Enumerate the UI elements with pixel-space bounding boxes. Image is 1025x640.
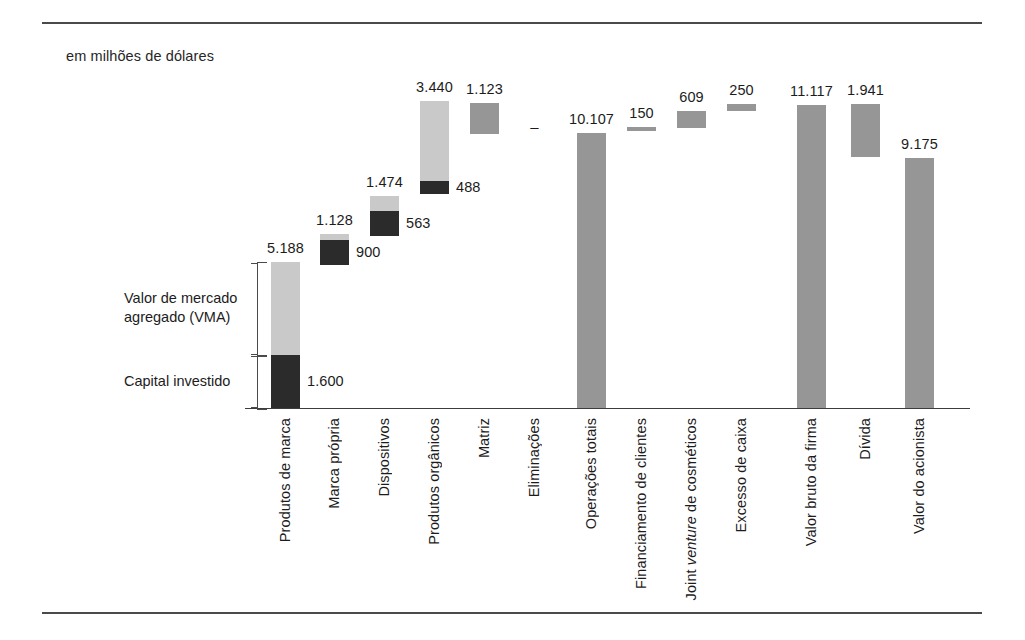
category-label-produtos-de-marca: Produtos de marca — [277, 418, 293, 542]
legend-brace-mva — [257, 262, 267, 357]
value-label-produtos-organicos: 3.440 — [416, 79, 453, 95]
category-label-valor-bruto-da-firma: Valor bruto da firma — [803, 418, 819, 546]
bar-produtos-de-marca[interactable] — [271, 0, 300, 408]
legend-brace-tick-top-cap — [251, 356, 258, 357]
category-label-eliminacoes: Eliminações — [526, 418, 542, 497]
value-label-excesso-de-caixa: 250 — [729, 82, 754, 98]
category-label-dispositivos: Dispositivos — [376, 418, 392, 497]
value-label-joint-venture-cosmeticos: 609 — [679, 89, 704, 105]
value-label-operacoes-totais: 10.107 — [569, 111, 614, 127]
segment-capital-produtos-organicos — [420, 181, 449, 194]
segment-capital-produtos-de-marca — [271, 355, 300, 408]
segment-value-divida — [851, 104, 880, 157]
category-label-valor-do-acionista: Valor do acionista — [911, 418, 927, 534]
waterfall-valuation-figure: em milhões de dólares 5.1881.600Produtos… — [0, 0, 1025, 640]
category-label-produtos-organicos: Produtos orgânicos — [426, 418, 442, 545]
legend-label-mva: Valor de mercado agregado (VMA) — [124, 289, 244, 327]
bar-valor-do-acionista[interactable] — [905, 0, 934, 408]
value-label-valor-do-acionista: 9.175 — [901, 136, 938, 152]
bar-financiamento-de-clientes[interactable] — [627, 0, 656, 408]
value-label-divida: 1.941 — [847, 82, 884, 98]
axis-baseline — [245, 408, 970, 409]
category-label-marca-propria: Marca própria — [326, 418, 342, 509]
segment-capital-dispositivos — [370, 211, 399, 236]
bar-joint-venture-cosmeticos[interactable] — [677, 0, 706, 408]
bar-valor-bruto-da-firma[interactable] — [797, 0, 826, 408]
bar-marca-propria[interactable] — [320, 0, 349, 408]
bar-produtos-organicos[interactable] — [420, 0, 449, 408]
bar-eliminacoes[interactable] — [520, 0, 549, 408]
value-label-marca-propria: 1.128 — [316, 212, 353, 228]
bar-operacoes-totais[interactable] — [577, 0, 606, 408]
value-label-produtos-de-marca: 5.188 — [267, 240, 304, 256]
category-label-divida: Dívida — [857, 418, 873, 460]
segment-mva-produtos-de-marca — [271, 262, 300, 355]
segment-value-matriz — [470, 103, 499, 134]
segment-value-excesso-de-caixa — [727, 104, 756, 111]
segment-value-financiamento-de-clientes — [627, 127, 656, 131]
category-label-operacoes-totais: Operações totais — [583, 418, 599, 529]
plot-area: 5.1881.600Produtos de marca1.128900Marca… — [0, 0, 1025, 640]
segment-value-valor-bruto-da-firma — [797, 105, 826, 408]
segment-value-operacoes-totais — [577, 133, 606, 408]
legend-label-cap: Capital investido — [124, 372, 244, 391]
legend-brace-tick-top-mva — [251, 263, 258, 264]
segment-mva-dispositivos — [370, 196, 399, 211]
segment-value-joint-venture-cosmeticos — [677, 111, 706, 128]
legend-brace-tick-bottom-cap — [251, 407, 258, 408]
category-label-joint-venture-cosmeticos: Joint venture de cosméticos — [683, 418, 699, 600]
category-label-excesso-de-caixa: Excesso de caixa — [733, 418, 749, 532]
segment-capital-marca-propria — [320, 240, 349, 265]
value-label-financiamento-de-clientes: 150 — [629, 105, 654, 121]
bar-matriz[interactable] — [470, 0, 499, 408]
category-label-matriz: Matriz — [476, 418, 492, 458]
value-label-valor-bruto-da-firma: 11.117 — [790, 83, 833, 99]
value-label-matriz: 1.123 — [466, 81, 503, 97]
bar-excesso-de-caixa[interactable] — [727, 0, 756, 408]
category-label-financiamento-de-clientes: Financiamento de clientes — [633, 418, 649, 589]
value-label-dispositivos: 1.474 — [366, 174, 403, 190]
bar-dispositivos[interactable] — [370, 0, 399, 408]
segment-mva-produtos-organicos — [420, 101, 449, 181]
legend-brace-cap — [257, 355, 267, 410]
bar-divida[interactable] — [851, 0, 880, 408]
segment-value-valor-do-acionista — [905, 158, 934, 408]
value-label-eliminacoes: – — [530, 118, 538, 135]
